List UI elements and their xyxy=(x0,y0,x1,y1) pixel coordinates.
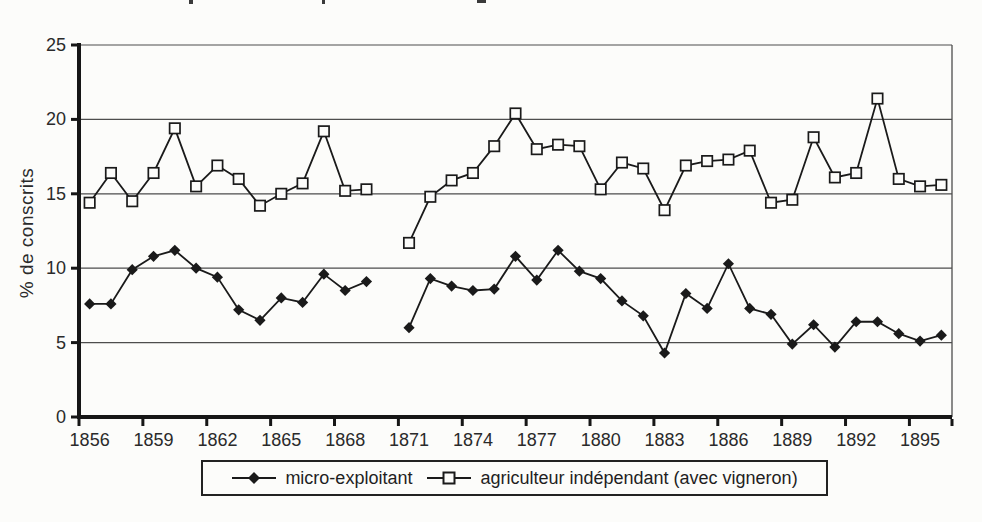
svg-text:1865: 1865 xyxy=(261,430,301,450)
legend-item-agriculteur-independant: agriculteur indépendant (avec vigneron) xyxy=(426,468,797,489)
svg-text:1862: 1862 xyxy=(197,430,237,450)
chart-plot: 0510152025185618591862186518681871187418… xyxy=(0,0,982,455)
x-axis-ticks: 1856185918621865186818711874187718801883… xyxy=(70,419,952,450)
svg-text:1895: 1895 xyxy=(900,430,940,450)
series-agriculteur-ind-pendant-avec-vigneron- xyxy=(84,93,946,248)
chart-legend: micro-exploitant agriculteur indépendant… xyxy=(201,460,828,496)
open-square-marker-icon xyxy=(426,471,472,485)
svg-text:1871: 1871 xyxy=(389,430,429,450)
svg-text:25: 25 xyxy=(46,35,66,55)
y-axis-title: % de conscrits xyxy=(16,168,38,299)
svg-text:1877: 1877 xyxy=(517,430,557,450)
svg-text:1868: 1868 xyxy=(325,430,365,450)
svg-text:1889: 1889 xyxy=(772,430,812,450)
svg-text:1856: 1856 xyxy=(70,430,110,450)
svg-text:1892: 1892 xyxy=(836,430,876,450)
svg-text:1874: 1874 xyxy=(453,430,493,450)
series-micro-exploitant xyxy=(84,245,947,359)
svg-text:1883: 1883 xyxy=(645,430,685,450)
svg-text:1880: 1880 xyxy=(581,430,621,450)
legend-label: micro-exploitant xyxy=(285,468,412,489)
svg-text:10: 10 xyxy=(46,258,66,278)
svg-text:5: 5 xyxy=(56,333,66,353)
gridlines xyxy=(79,45,952,417)
svg-text:1886: 1886 xyxy=(708,430,748,450)
svg-text:1859: 1859 xyxy=(134,430,174,450)
axes xyxy=(77,43,952,419)
legend-item-micro-exploitant: micro-exploitant xyxy=(231,468,412,489)
legend-label: agriculteur indépendant (avec vigneron) xyxy=(480,468,797,489)
svg-text:20: 20 xyxy=(46,109,66,129)
svg-text:0: 0 xyxy=(56,407,66,427)
scanned-chart-page: 0510152025185618591862186518681871187418… xyxy=(0,0,982,522)
filled-diamond-marker-icon xyxy=(231,471,277,485)
y-axis-ticks: 0510152025 xyxy=(46,35,79,427)
svg-text:15: 15 xyxy=(46,184,66,204)
